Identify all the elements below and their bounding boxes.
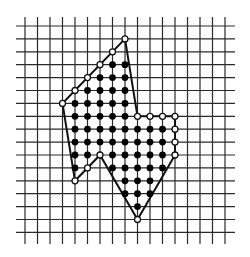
interior-point <box>147 139 154 146</box>
interior-point <box>84 100 91 107</box>
interior-point <box>97 139 104 146</box>
interior-point <box>97 87 104 94</box>
boundary-point <box>172 113 178 119</box>
interior-point <box>134 139 141 146</box>
interior-point <box>147 152 154 159</box>
boundary-point <box>135 113 141 119</box>
interior-point <box>109 61 116 68</box>
interior-point <box>84 113 91 120</box>
interior-point <box>159 152 166 159</box>
boundary-point <box>97 62 103 68</box>
boundary-point <box>72 88 78 94</box>
interior-point <box>122 139 129 146</box>
interior-point <box>97 113 104 120</box>
lattice-polygon-figure <box>0 0 250 257</box>
interior-point <box>109 139 116 146</box>
interior-point <box>84 126 91 133</box>
interior-point <box>109 100 116 107</box>
boundary-point <box>110 49 116 55</box>
interior-point <box>122 177 129 184</box>
interior-point <box>122 126 129 133</box>
boundary-point <box>85 75 91 81</box>
interior-point <box>134 126 141 133</box>
boundary-point <box>60 100 66 106</box>
interior-point <box>122 61 129 68</box>
interior-point <box>84 152 91 159</box>
interior-point <box>122 165 129 172</box>
boundary-point <box>97 152 103 158</box>
interior-point <box>72 113 79 120</box>
boundary-point <box>160 113 166 119</box>
interior-point <box>84 87 91 94</box>
interior-point <box>97 100 104 107</box>
boundary-point <box>172 152 178 158</box>
interior-point <box>159 165 166 172</box>
interior-point <box>134 203 141 210</box>
interior-point <box>109 165 116 172</box>
boundary-point <box>72 178 78 184</box>
interior-point <box>134 152 141 159</box>
interior-point <box>122 190 129 197</box>
interior-point <box>147 165 154 172</box>
interior-point <box>97 126 104 133</box>
interior-point <box>147 190 154 197</box>
interior-point <box>97 74 104 81</box>
interior-point <box>134 165 141 172</box>
interior-point <box>72 126 79 133</box>
interior-point <box>109 126 116 133</box>
interior-point <box>109 152 116 159</box>
interior-point <box>122 152 129 159</box>
interior-point <box>84 139 91 146</box>
interior-point <box>134 177 141 184</box>
interior-point <box>159 139 166 146</box>
interior-point <box>72 139 79 146</box>
interior-point <box>147 126 154 133</box>
interior-point <box>122 113 129 120</box>
interior-point <box>109 113 116 120</box>
interior-point <box>109 87 116 94</box>
interior-point <box>147 177 154 184</box>
interior-point <box>134 190 141 197</box>
interior-point <box>159 126 166 133</box>
interior-point <box>109 74 116 81</box>
boundary-point <box>147 113 153 119</box>
interior-point <box>122 100 129 107</box>
boundary-point <box>85 165 91 171</box>
interior-point <box>122 74 129 81</box>
interior-point <box>72 165 79 172</box>
boundary-point <box>122 36 128 42</box>
interior-point <box>72 100 79 107</box>
interior-point <box>122 87 129 94</box>
boundary-point <box>135 217 141 223</box>
boundary-point <box>172 139 178 145</box>
interior-point <box>72 152 79 159</box>
boundary-point <box>172 126 178 132</box>
